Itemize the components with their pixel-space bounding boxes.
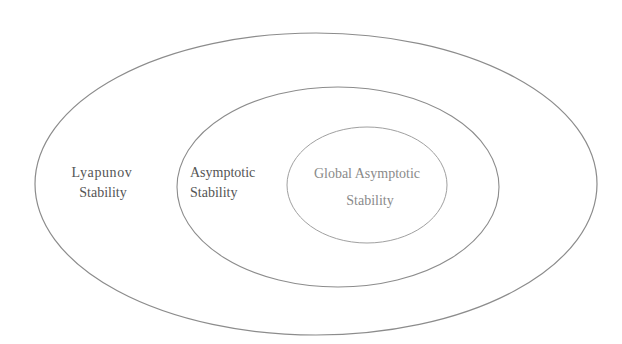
global-label-line1: Global Asymptotic bbox=[314, 166, 420, 181]
global-asymptotic-label: Global Asymptotic Stability bbox=[314, 166, 420, 208]
global-asymptotic-stability-ellipse bbox=[287, 127, 447, 243]
global-label-line2: Stability bbox=[346, 193, 393, 208]
stability-venn-diagram: Lyapunov Stability Asymptotic Stability … bbox=[0, 0, 622, 344]
lyapunov-label-line1: Lyapunov bbox=[72, 165, 133, 180]
lyapunov-label: Lyapunov Stability bbox=[72, 165, 133, 200]
asymptotic-label: Asymptotic Stability bbox=[190, 165, 255, 200]
asymptotic-label-line1: Asymptotic bbox=[190, 165, 255, 180]
lyapunov-label-line2: Stability bbox=[79, 185, 126, 200]
asymptotic-label-line2: Stability bbox=[190, 185, 237, 200]
lyapunov-stability-ellipse bbox=[35, 33, 597, 335]
